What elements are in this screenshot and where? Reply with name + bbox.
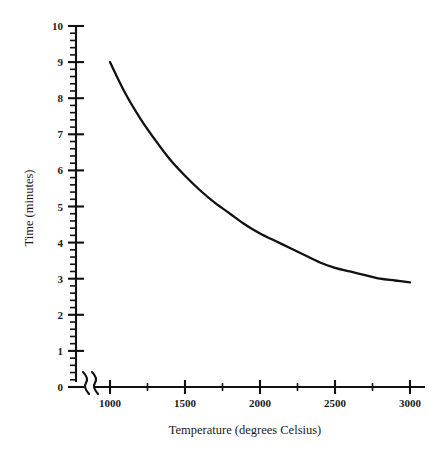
axes-group [76,26,424,387]
y-tick-label: 1 [58,345,64,357]
x-tick-label: 2500 [324,397,347,409]
y-tick-label: 3 [58,273,64,285]
x-tick-label: 2000 [249,397,272,409]
y-tick-label: 4 [58,237,64,249]
chart-plot-area: 012345678910 10001500200025003000 Temper… [0,0,442,453]
y-tick-label: 2 [58,309,64,321]
y-tick-label: 7 [58,128,64,140]
y-tick-label: 10 [52,20,64,32]
x-axis-tick-labels: 10001500200025003000 [99,397,422,409]
x-tick-label: 1500 [174,397,197,409]
x-tick-label: 3000 [399,397,422,409]
y-tick-label: 6 [58,164,64,176]
y-tick-label: 5 [58,201,64,213]
y-tick-label: 8 [58,92,64,104]
y-axis-tick-labels: 012345678910 [52,20,64,393]
y-tick-label: 9 [58,56,64,68]
data-series-curve [110,62,410,282]
x-axis-title: Temperature (degrees Celsius) [169,423,322,437]
chart-figure: 012345678910 10001500200025003000 Temper… [0,0,442,453]
y-tick-label: 0 [58,381,64,393]
x-tick-label: 1000 [99,397,122,409]
y-axis-title: Time (minutes) [22,170,36,247]
x-axis-break-icon [83,372,98,394]
